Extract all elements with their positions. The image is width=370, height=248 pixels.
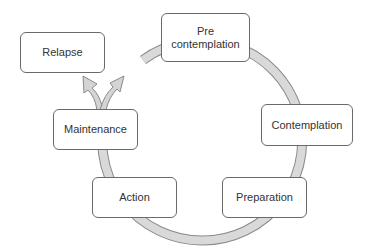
relapse-arrow <box>83 76 103 110</box>
stage-label: Contemplation <box>272 119 343 132</box>
stage-preparation: Preparation <box>222 177 307 218</box>
stage-relapse: Relapse <box>20 32 105 73</box>
stage-label: Preparation <box>236 191 293 204</box>
stage-label-line2: contemplation <box>171 38 240 51</box>
stage-contemplation: Contemplation <box>261 104 353 146</box>
stage-label: Maintenance <box>64 123 127 136</box>
stage-label-line1: Pre <box>197 25 214 38</box>
stage-action: Action <box>92 177 177 218</box>
stage-label: Action <box>119 191 150 204</box>
recycle-arrow <box>100 76 124 110</box>
stage-maintenance: Maintenance <box>53 109 138 150</box>
stage-precontemplation: Pre contemplation <box>161 13 250 62</box>
stage-label: Relapse <box>42 46 82 59</box>
